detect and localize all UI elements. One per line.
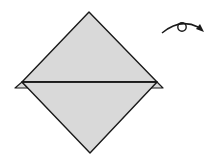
origami-diagram: Turn the model over: [0, 0, 211, 165]
turn-over-icon: [162, 23, 204, 33]
upper-triangle: [22, 12, 157, 82]
lower-triangle: [22, 82, 157, 153]
diagram-svg: [0, 0, 211, 165]
